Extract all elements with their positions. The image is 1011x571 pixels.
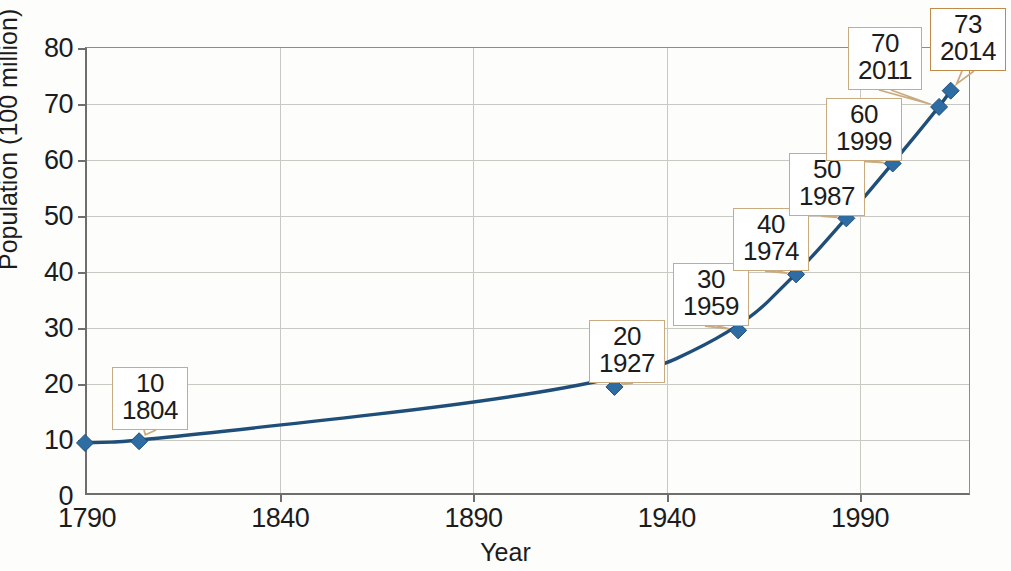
x-tick-mark xyxy=(473,493,475,502)
annotation-callout: 501987 xyxy=(789,153,865,216)
annotation-value: 30 xyxy=(683,266,739,293)
annotation-year: 2014 xyxy=(940,38,996,65)
annotation-callout: 601999 xyxy=(826,98,902,161)
gridline-vertical xyxy=(667,48,668,493)
y-tick-mark xyxy=(78,48,87,50)
y-tick-label: 80 xyxy=(44,33,73,64)
annotation-year: 1959 xyxy=(683,293,739,320)
y-tick-label: 50 xyxy=(44,201,73,232)
gridline-horizontal xyxy=(87,328,969,329)
y-tick-label: 30 xyxy=(44,313,73,344)
annotation-callout: 101804 xyxy=(112,367,188,430)
annotation-year: 1987 xyxy=(799,183,855,210)
y-tick-mark xyxy=(78,216,87,218)
gridline-vertical xyxy=(473,48,474,493)
annotation-value: 70 xyxy=(858,30,912,57)
annotation-callout: 201927 xyxy=(589,320,665,383)
y-tick-mark xyxy=(78,272,87,274)
x-tick-label: 1940 xyxy=(638,503,696,534)
y-tick-label: 20 xyxy=(44,369,73,400)
chart-figure: Population (100 million) 010203040506070… xyxy=(0,0,1011,571)
y-tick-label: 70 xyxy=(44,89,73,120)
gridline-horizontal xyxy=(87,384,969,385)
annotation-callout: 301959 xyxy=(673,263,749,326)
annotation-year: 2011 xyxy=(858,57,912,84)
y-tick-label: 40 xyxy=(44,257,73,288)
annotation-value: 60 xyxy=(836,101,892,128)
y-tick-mark xyxy=(78,104,87,106)
y-tick-mark xyxy=(78,160,87,162)
y-axis-title: Population (100 million) xyxy=(0,9,23,270)
annotation-year: 1999 xyxy=(836,128,892,155)
gridline-vertical xyxy=(280,48,281,493)
annotation-callout: 401974 xyxy=(733,208,809,271)
x-tick-label: 1790 xyxy=(58,503,116,534)
x-tick-mark xyxy=(860,493,862,502)
annotation-callout: 732014 xyxy=(930,8,1006,71)
gridline-horizontal xyxy=(87,440,969,441)
annotation-value: 20 xyxy=(599,323,655,350)
annotation-year: 1804 xyxy=(122,397,178,424)
annotation-value: 10 xyxy=(122,370,178,397)
y-tick-label: 60 xyxy=(44,145,73,176)
gridline-horizontal xyxy=(87,216,969,217)
x-tick-label: 1990 xyxy=(831,503,889,534)
annotation-year: 1927 xyxy=(599,350,655,377)
x-tick-mark xyxy=(280,493,282,502)
x-tick-mark xyxy=(667,493,669,502)
y-tick-mark xyxy=(78,440,87,442)
x-tick-label: 1840 xyxy=(251,503,309,534)
y-tick-mark xyxy=(78,328,87,330)
y-tick-mark xyxy=(78,384,87,386)
x-axis-title: Year xyxy=(0,538,1011,567)
annotation-year: 1974 xyxy=(743,238,799,265)
y-tick-label: 10 xyxy=(44,425,73,456)
gridline-horizontal xyxy=(87,272,969,273)
annotation-callout: 702011 xyxy=(848,27,922,90)
x-tick-label: 1890 xyxy=(444,503,502,534)
annotation-value: 73 xyxy=(940,11,996,38)
